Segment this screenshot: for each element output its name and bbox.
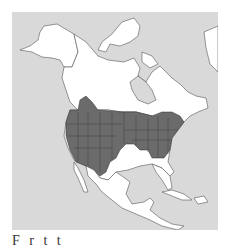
alaska-landmass: [20, 24, 78, 67]
map-frame: [12, 12, 218, 230]
cuba: [162, 190, 192, 200]
arctic-island-2: [142, 52, 158, 68]
map-caption: F r t t: [12, 233, 64, 249]
greenland-edge: [204, 26, 218, 72]
arctic-islands: [98, 18, 140, 52]
north-america-map: [12, 12, 218, 230]
hispaniola: [194, 196, 208, 204]
